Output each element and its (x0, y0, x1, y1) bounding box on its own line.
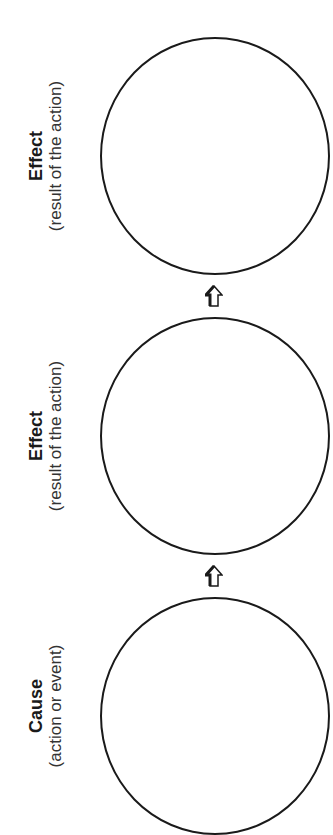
effect-circle-top (100, 37, 330, 275)
node-subtitle: (action or event) (46, 586, 66, 826)
up-arrow-icon (205, 565, 223, 587)
node-title: Effect (26, 316, 46, 556)
effect-label-middle: Effect (result of the action) (26, 316, 74, 556)
cause-label: Cause (action or event) (26, 586, 74, 826)
cause-circle (100, 597, 330, 835)
node-title: Cause (26, 586, 46, 826)
node-subtitle: (result of the action) (46, 316, 66, 556)
node-subtitle: (result of the action) (46, 36, 66, 276)
effect-circle-middle (100, 317, 330, 555)
up-arrow-icon (205, 285, 223, 307)
effect-label-top: Effect (result of the action) (26, 36, 74, 276)
node-title: Effect (26, 36, 46, 276)
